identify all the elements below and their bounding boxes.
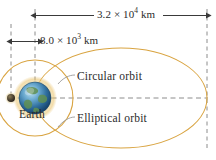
dimension-inner-base: 10 xyxy=(66,34,77,46)
dimension-inner-exponent: 3 xyxy=(77,32,81,41)
dimension-inner-unit: km xyxy=(84,34,98,46)
dimension-outer-value: 3.2 xyxy=(97,8,111,20)
dimension-label-outer: 3.2 × 104 km xyxy=(97,9,155,20)
orbit-diagram-figure: 3.2 × 104 km 8.0 × 103 km Circular orbit… xyxy=(0,0,216,160)
dimension-outer-multiply: × xyxy=(114,8,120,20)
dimension-outer-base: 10 xyxy=(123,8,134,20)
dimension-label-inner: 8.0 × 103 km xyxy=(40,35,98,46)
earth-label: Earth xyxy=(19,109,45,121)
dimension-inner-multiply: × xyxy=(57,34,63,46)
circular-orbit-label: Circular orbit xyxy=(77,71,142,83)
elliptical-orbit-label: Elliptical orbit xyxy=(77,113,147,125)
focus-point xyxy=(7,94,15,102)
dimension-outer-unit: km xyxy=(141,8,155,20)
dimension-inner-value: 8.0 xyxy=(40,34,54,46)
dimension-outer-exponent: 4 xyxy=(134,6,138,15)
